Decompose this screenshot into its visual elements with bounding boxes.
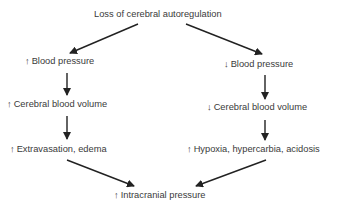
node-hypoxia-hypercarbia-acidosis: ↑Hypoxia, hypercarbia, acidosis <box>187 144 320 155</box>
up-arrow-icon: ↑ <box>10 144 15 154</box>
node-label: Blood pressure <box>231 59 294 69</box>
up-arrow-icon: ↑ <box>7 99 12 109</box>
up-arrow-icon: ↑ <box>114 190 119 200</box>
down-arrow-icon: ↓ <box>207 102 212 112</box>
arrow-right-3-to-outcome <box>196 160 266 186</box>
node-left-blood-pressure: ↑Blood pressure <box>25 56 94 67</box>
node-label: Extravasation, edema <box>17 144 107 154</box>
arrow-title-to-left <box>70 24 138 53</box>
node-extravasation-edema: ↑Extravasation, edema <box>10 144 107 155</box>
node-label: Intracranial pressure <box>121 190 206 200</box>
node-right-cerebral-blood-volume: ↓Cerebral blood volume <box>207 102 307 113</box>
node-label: Cerebral blood volume <box>214 102 308 112</box>
node-label: Blood pressure <box>32 56 95 66</box>
node-label: Hypoxia, hypercarbia, acidosis <box>194 144 320 154</box>
arrow-title-to-right <box>186 24 262 54</box>
node-label: Cerebral blood volume <box>14 99 108 109</box>
node-loss-of-autoregulation: Loss of cerebral autoregulation <box>94 9 222 20</box>
up-arrow-icon: ↑ <box>25 56 30 66</box>
up-arrow-icon: ↑ <box>187 144 192 154</box>
node-intracranial-pressure: ↑Intracranial pressure <box>114 190 205 201</box>
flow-diagram: Loss of cerebral autoregulation ↑Blood p… <box>0 0 346 208</box>
down-arrow-icon: ↓ <box>224 59 229 69</box>
arrow-left-3-to-outcome <box>67 160 134 186</box>
node-left-cerebral-blood-volume: ↑Cerebral blood volume <box>7 99 107 110</box>
node-right-blood-pressure: ↓Blood pressure <box>224 59 293 70</box>
title-label: Loss of cerebral autoregulation <box>94 9 222 19</box>
